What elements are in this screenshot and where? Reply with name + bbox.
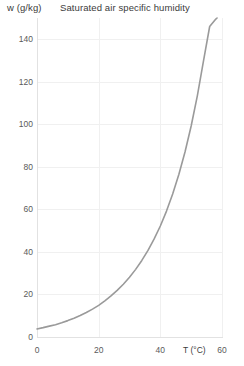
data-curve-layer <box>0 0 244 366</box>
saturation-curve <box>37 18 217 329</box>
chart-figure: w (g/kg) Saturated air specific humidity… <box>0 0 244 366</box>
